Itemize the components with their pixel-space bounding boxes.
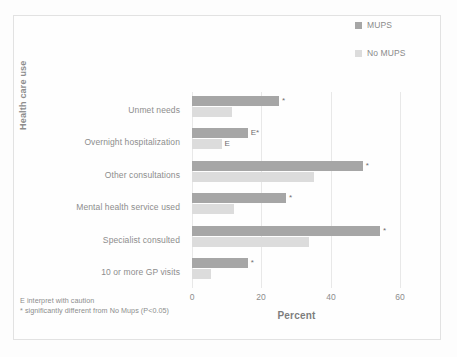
category-label-unmet-needs: Unmet needs <box>128 105 180 115</box>
bar-other-consultations-no-mups[interactable] <box>192 172 314 182</box>
bar-group-other-consultations: * <box>192 161 401 193</box>
footnote-e: E interpret with caution <box>20 296 250 306</box>
category-label-overnight-hospitalization: Overnight hospitalization <box>84 137 180 147</box>
bar-group-unmet-needs: * <box>192 96 401 128</box>
bar-group-overnight-hospitalization: E* E <box>192 128 401 160</box>
bar-note-other-consultations-mups: * <box>366 161 369 171</box>
bar-note-10-or-more-gp-visits-mups: * <box>251 258 254 268</box>
chart-legend: MUPS No MUPS <box>329 20 439 76</box>
bar-mental-health-service-used-no-mups[interactable] <box>192 204 234 214</box>
x-tick-40: 40 <box>326 292 335 302</box>
y-axis-title: Health care use <box>18 60 28 130</box>
legend-item-mups[interactable]: MUPS <box>329 20 439 30</box>
bar-mental-health-service-used-mups[interactable] <box>192 193 286 203</box>
chart-footnotes: E interpret with caution * significantly… <box>20 296 250 316</box>
bar-group-mental-health-service-used: * <box>192 193 401 225</box>
bar-group-specialist-consulted: * <box>192 226 401 258</box>
bar-note-unmet-needs-mups: * <box>282 96 285 106</box>
bar-note-overnight-hospitalization-no-mups: E <box>225 139 230 149</box>
bar-overnight-hospitalization-mups[interactable] <box>192 128 248 138</box>
category-label-10-or-more-gp-visits: 10 or more GP visits <box>101 267 180 277</box>
legend-item-no-mups[interactable]: No MUPS <box>329 48 439 58</box>
bar-10-or-more-gp-visits-mups[interactable] <box>192 258 248 268</box>
footnote-asterisk: * significantly different from No Mups (… <box>20 306 250 316</box>
bar-note-specialist-consulted-mups: * <box>383 226 386 236</box>
bar-specialist-consulted-no-mups[interactable] <box>192 237 309 247</box>
bar-unmet-needs-no-mups[interactable] <box>192 107 232 117</box>
x-tick-60: 60 <box>395 292 404 302</box>
chart-figure: MUPS No MUPS Unmet needs Overnight hospi… <box>0 0 457 357</box>
bar-note-mental-health-service-used-mups: * <box>289 193 292 203</box>
bar-specialist-consulted-mups[interactable] <box>192 226 380 236</box>
legend-swatch-no-mups <box>355 50 362 57</box>
bar-note-overnight-hospitalization-mups: E* <box>251 128 259 138</box>
bar-10-or-more-gp-visits-no-mups[interactable] <box>192 269 211 279</box>
bar-other-consultations-mups[interactable] <box>192 161 363 171</box>
bar-group-10-or-more-gp-visits: * <box>192 258 401 290</box>
legend-label-mups: MUPS <box>367 20 392 30</box>
category-label-mental-health-service-used: Mental health service used <box>76 202 180 212</box>
category-axis-labels: Unmet needs Overnight hospitalization Ot… <box>40 92 186 288</box>
plot-area: * E* E * * * <box>192 92 401 288</box>
bar-unmet-needs-mups[interactable] <box>192 96 279 106</box>
x-tick-20: 20 <box>256 292 265 302</box>
legend-swatch-mups <box>355 22 362 29</box>
category-label-specialist-consulted: Specialist consulted <box>103 235 180 245</box>
bar-overnight-hospitalization-no-mups[interactable] <box>192 139 222 149</box>
legend-label-no-mups: No MUPS <box>367 48 406 58</box>
category-label-other-consultations: Other consultations <box>105 170 180 180</box>
